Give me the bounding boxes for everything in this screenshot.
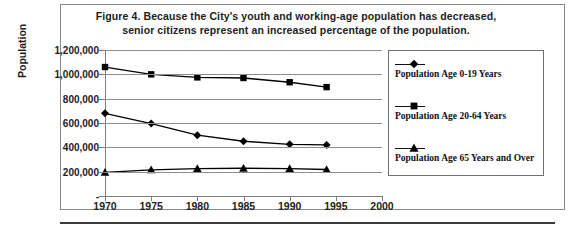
grid-line bbox=[105, 50, 382, 51]
square-marker-icon bbox=[395, 101, 545, 111]
chart-legend: Population Age 0-19 YearsPopulation Age … bbox=[388, 50, 544, 176]
series-line bbox=[105, 67, 327, 87]
legend-marker bbox=[406, 101, 422, 113]
grid-line bbox=[105, 123, 382, 124]
y-axis-tick bbox=[99, 74, 105, 75]
y-axis-tick bbox=[99, 147, 105, 148]
x-axis-tick-label: 1975 bbox=[127, 200, 175, 212]
data-point-marker bbox=[286, 79, 292, 85]
grid-line bbox=[105, 172, 382, 173]
legend-marker bbox=[406, 143, 422, 155]
y-axis-tick bbox=[99, 99, 105, 100]
data-point-marker bbox=[240, 137, 248, 145]
series-line bbox=[105, 113, 327, 145]
series-2 bbox=[102, 64, 330, 90]
grid-line bbox=[105, 74, 382, 75]
y-axis-tick bbox=[99, 172, 105, 173]
y-axis-tick bbox=[99, 50, 105, 51]
x-axis-tick-label: 1990 bbox=[266, 200, 314, 212]
data-point-marker bbox=[101, 109, 109, 117]
diamond-marker-icon bbox=[395, 59, 545, 69]
series-3 bbox=[101, 164, 331, 176]
x-axis-tick-label: 1970 bbox=[81, 200, 129, 212]
data-point-marker bbox=[323, 84, 329, 90]
x-axis-tick-label: 1980 bbox=[173, 200, 221, 212]
series-1 bbox=[101, 109, 331, 149]
legend-item-2[interactable]: Population Age 20-64 Years bbox=[395, 101, 545, 122]
legend-item-1[interactable]: Population Age 0-19 Years bbox=[395, 59, 545, 80]
legend-item-3[interactable]: Population Age 65 Years and Over bbox=[395, 143, 545, 164]
data-point-marker bbox=[240, 75, 246, 81]
data-point-marker bbox=[193, 131, 201, 139]
grid-line bbox=[105, 99, 382, 100]
triangle-marker-icon bbox=[395, 143, 545, 153]
data-point-marker bbox=[102, 64, 108, 70]
legend-marker bbox=[406, 59, 422, 71]
y-axis-tick bbox=[99, 123, 105, 124]
x-axis-tick-label: 2000 bbox=[358, 200, 406, 212]
x-axis-tick-label: 1995 bbox=[312, 200, 360, 212]
grid-line bbox=[105, 147, 382, 148]
x-axis-tick-label: 1985 bbox=[220, 200, 268, 212]
